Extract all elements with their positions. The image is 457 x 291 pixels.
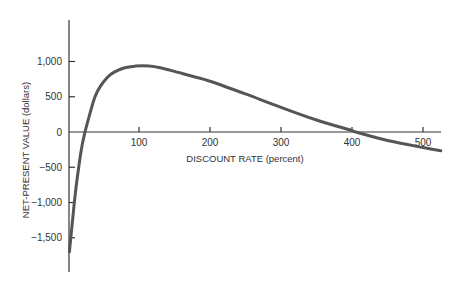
y-tick-label: −1,500 — [31, 232, 62, 243]
x-tick-label: 300 — [273, 137, 290, 148]
x-tick-label: 400 — [344, 137, 361, 148]
y-tick-label: 1,000 — [37, 56, 62, 67]
y-tick-label: 0 — [56, 127, 62, 138]
y-tick-label: −1,000 — [31, 197, 62, 208]
y-tick-label: 500 — [45, 91, 62, 102]
y-axis-label: NET-PRESENT VALUE (dollars) — [20, 82, 31, 218]
x-tick-label: 200 — [202, 137, 219, 148]
x-ticks: 100200300400500 — [131, 127, 432, 148]
y-tick-label: −500 — [39, 162, 62, 173]
x-axis-label: DISCOUNT RATE (percent) — [186, 153, 303, 164]
x-axis: 100200300400500 DISCOUNT RATE (percent) — [69, 127, 441, 164]
x-tick-label: 100 — [131, 137, 148, 148]
npv-chart: 1,0005000−500−1,000−1,500 NET-PRESENT VA… — [0, 0, 457, 291]
y-axis: 1,0005000−500−1,000−1,500 NET-PRESENT VA… — [20, 20, 75, 272]
